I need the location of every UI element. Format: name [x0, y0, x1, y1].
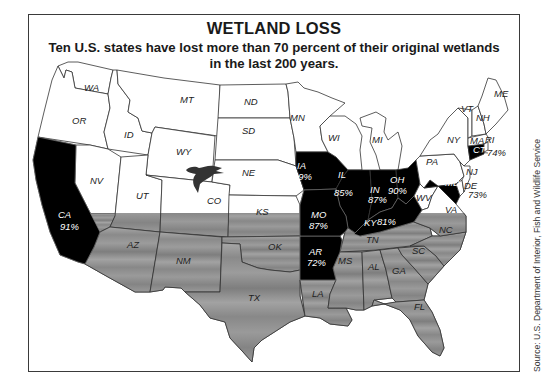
- label-vt: VT: [461, 103, 474, 114]
- label-la: LA: [312, 288, 324, 299]
- label-ia-pct: 89%: [293, 171, 313, 182]
- label-nv: NV: [90, 175, 105, 186]
- label-wy: WY: [176, 146, 192, 157]
- label-ga: GA: [392, 265, 406, 276]
- label-tn: TN: [366, 234, 379, 245]
- label-mt: MT: [180, 94, 195, 105]
- source-credit: Source: U.S. Department of Interior, Fis…: [532, 139, 542, 372]
- label-ms: MS: [338, 255, 353, 266]
- label-me: ME: [494, 88, 509, 99]
- label-co: CO: [207, 195, 222, 206]
- label-ct-pct: 74%: [487, 147, 507, 158]
- label-sd: SD: [242, 125, 255, 136]
- label-nd: ND: [244, 96, 258, 107]
- label-ca: CA: [58, 209, 71, 220]
- label-ca-pct: 91%: [60, 221, 80, 232]
- label-ia: IA: [297, 160, 306, 171]
- label-mn: MN: [290, 112, 305, 123]
- label-oh-pct: 90%: [388, 185, 408, 196]
- label-fl: FL: [414, 301, 425, 312]
- label-mo: MO: [311, 209, 327, 220]
- label-ne: NE: [242, 167, 256, 178]
- label-wi: WI: [328, 132, 340, 143]
- label-ar: AR: [308, 246, 322, 257]
- label-ok: OK: [268, 241, 282, 252]
- label-il-pct: 85%: [334, 187, 354, 198]
- label-sc: SC: [412, 245, 425, 256]
- us-wetland-map: WA OR ID MT WY NV UT CO CA 91% AZ NM ND …: [0, 0, 557, 388]
- label-ut: UT: [136, 190, 150, 201]
- label-md-pct: 73%: [468, 189, 488, 200]
- label-md: MD: [445, 177, 460, 188]
- label-wv: WV: [416, 192, 433, 203]
- label-nm: NM: [176, 255, 191, 266]
- label-id: ID: [124, 129, 134, 140]
- label-nj: NJ: [466, 166, 478, 177]
- label-mi: MI: [372, 134, 383, 145]
- label-ky-pct: 81%: [377, 216, 397, 227]
- label-ri: RI: [485, 134, 495, 145]
- label-wa: WA: [84, 82, 99, 93]
- label-il: IL: [338, 169, 346, 180]
- label-or: OR: [72, 115, 86, 126]
- label-ky: KY: [364, 217, 377, 228]
- label-in-pct: 87%: [368, 194, 388, 205]
- label-mo-pct: 87%: [309, 220, 329, 231]
- label-ny: NY: [447, 134, 461, 145]
- label-ar-pct: 72%: [307, 257, 327, 268]
- label-oh: OH: [390, 174, 404, 185]
- label-ct: CT: [473, 144, 487, 155]
- label-va: VA: [445, 204, 457, 215]
- label-az: AZ: [126, 239, 140, 250]
- state-sd: [215, 118, 296, 166]
- label-pa: PA: [426, 156, 438, 167]
- label-al: AL: [367, 261, 380, 272]
- label-tx: TX: [248, 292, 261, 303]
- label-nc: NC: [439, 224, 453, 235]
- label-nh: NH: [476, 112, 490, 123]
- label-ks: KS: [256, 206, 269, 217]
